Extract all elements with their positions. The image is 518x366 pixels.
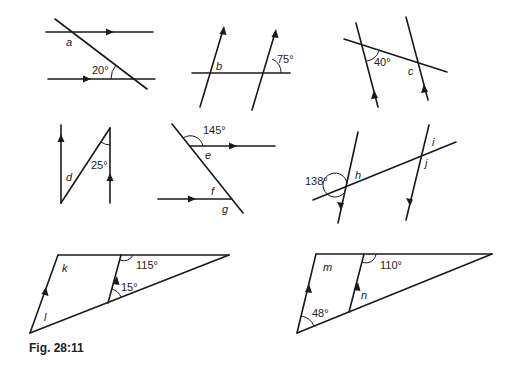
unknown-c: c [408,65,414,77]
angle-145: 145° [203,124,226,136]
angle-48: 48° [312,307,329,319]
parallel-arrow-icon [337,202,344,210]
figure-d: d 25° [58,125,114,203]
unknown-d: d [66,171,73,183]
unknown-l: l [44,311,47,323]
unknown-m: m [323,261,332,273]
figure-kl: k 115° 15° l [30,255,229,333]
parallel-arrow-icon [371,90,378,99]
parallel-line-right [406,125,429,220]
angle-138: 138° [305,175,328,187]
parallel-arrow-icon [272,29,279,38]
angle-arc [101,142,110,145]
transversal-line [344,39,447,72]
figure-caption: Fig. 28:11 [29,341,84,355]
angle-75: 75° [277,53,294,65]
unknown-n: n [361,289,367,301]
figure-c: 40° c [344,17,447,107]
angle-115: 115° [136,259,158,271]
unknown-e: e [205,149,211,161]
diagram-canvas: a 20° b 75° 40° c d 25° [0,0,518,366]
parallel-line-inner [108,255,121,303]
parallel-arrow-icon [421,84,428,93]
unknown-b: b [216,60,222,72]
parallel-arrow-icon [220,26,227,35]
triangle-base [30,255,229,333]
angle-arc [112,289,121,297]
figure-efg: 145° e f g [158,124,275,215]
angle-110: 110° [380,259,402,271]
parallel-arrow-icon [305,284,312,293]
angle-25: 25° [91,159,108,171]
figure-hij: 138° h i j [305,125,456,223]
unknown-a: a [66,36,72,48]
parallel-line-inner [349,254,364,312]
figure-mn: m 110° n 48° [297,254,492,333]
transversal-line [313,142,456,200]
angle-arc [111,65,116,79]
figure-b: b 75° [192,26,294,110]
unknown-f: f [211,185,215,197]
parallel-arrow-icon [229,143,237,150]
parallel-arrow-icon [83,76,91,83]
unknown-i: i [432,136,435,148]
angle-arc [120,255,133,261]
parallel-line-left [297,254,316,333]
angle-20: 20° [92,64,109,76]
parallel-arrow-icon [188,196,196,203]
unknown-g: g [222,203,229,215]
unknown-h: h [355,169,361,181]
unknown-j: j [423,157,428,169]
angle-15: 15° [121,281,138,293]
parallel-arrow-icon [58,134,65,142]
parallel-arrow-icon [106,29,114,36]
parallel-arrow-icon [107,173,114,181]
parallel-line-right [252,33,275,110]
parallel-arrow-icon [42,287,49,296]
angle-40: 40° [374,56,391,68]
unknown-k: k [62,262,68,274]
figure-a: a 20° [46,19,155,89]
parallel-arrow-icon [406,198,413,206]
